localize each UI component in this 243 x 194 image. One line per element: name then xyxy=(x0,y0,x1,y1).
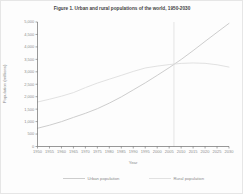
y-axis-tick-label: 3,500 xyxy=(24,57,35,62)
rural-population-line xyxy=(38,63,230,102)
legend: Urban population Rural population xyxy=(63,176,205,181)
x-axis-title: Year xyxy=(129,160,138,165)
y-axis-tick-label: 1,500 xyxy=(24,107,35,112)
x-axis-tick-label: 2000 xyxy=(153,149,163,154)
rural-legend-label: Rural population xyxy=(174,176,205,181)
y-axis-tick-label: 1,000 xyxy=(24,119,35,124)
y-axis-tick-label: 2,000 xyxy=(24,94,35,99)
x-axis-tick-label: 2015 xyxy=(189,149,199,154)
x-axis-tick-label: 2010 xyxy=(177,149,187,154)
x-axis-tick-label: 2025 xyxy=(213,149,223,154)
urban-legend-label: Urban population xyxy=(88,176,121,181)
y-axis-tick-label: 3,000 xyxy=(24,69,35,74)
y-axis-title: Population (millions) xyxy=(2,64,7,103)
y-axis-tick-label: 500 xyxy=(28,131,35,136)
y-axis-tick-label: 2,500 xyxy=(24,82,35,87)
x-axis-tick-label: 1990 xyxy=(129,149,139,154)
x-axis-tick-label: 1980 xyxy=(105,149,115,154)
x-axis-tick-label: 1975 xyxy=(93,149,103,154)
x-axis-tick-label: 1985 xyxy=(117,149,127,154)
y-axis-tick-label: 5,000 xyxy=(24,19,35,24)
axes xyxy=(38,22,230,147)
x-axis-tick-label: 1970 xyxy=(81,149,91,154)
figure: Figure 1. Urban and rural populations of… xyxy=(0,0,243,194)
chart-title: Figure 1. Urban and rural populations of… xyxy=(54,6,191,11)
x-axis-tick-label: 1995 xyxy=(141,149,151,154)
x-axis-tick-label: 1950 xyxy=(33,149,43,154)
urban-population-line xyxy=(38,23,230,128)
x-axis-tick-label: 2005 xyxy=(165,149,175,154)
plot-area: 05001,0001,5002,0002,5003,0003,5004,0004… xyxy=(24,19,234,153)
x-axis-tick-label: 2030 xyxy=(225,149,235,154)
x-axis-tick-label: 1955 xyxy=(45,149,55,154)
x-axis-tick-label: 2020 xyxy=(201,149,211,154)
x-axis-tick-label: 1960 xyxy=(57,149,67,154)
x-axis-tick-label: 1965 xyxy=(69,149,79,154)
y-axis-tick-label: 4,500 xyxy=(24,32,35,37)
population-line-chart: Figure 1. Urban and rural populations of… xyxy=(0,0,243,194)
y-axis-tick-label: 4,000 xyxy=(24,44,35,49)
